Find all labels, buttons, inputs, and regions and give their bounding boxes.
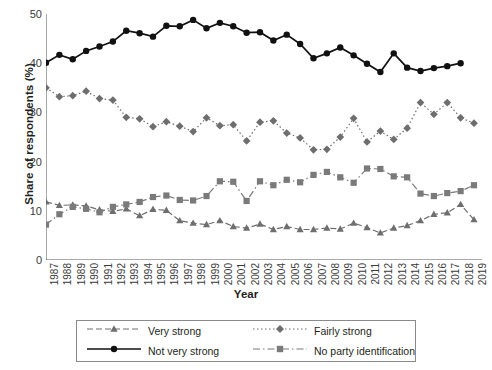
- legend-key-not-very-strong: [85, 342, 143, 360]
- y-axis-tick-label: 20: [30, 156, 42, 168]
- legend-key-fairly-strong: [251, 322, 309, 340]
- x-axis-tick-label: 1992: [117, 263, 127, 285]
- x-axis-tick-label: 2005: [291, 263, 301, 285]
- series-fairly-strong: [46, 84, 478, 154]
- x-axis-tick-label: 1998: [197, 263, 207, 285]
- x-axis-tick-label: 2011: [371, 263, 381, 285]
- x-axis-tick-label: 1990: [90, 263, 100, 285]
- plot-area: 0102030405019871988198919901991199219931…: [46, 14, 482, 260]
- series-not-very-strong: [46, 17, 464, 76]
- x-axis-tick-label: 1994: [144, 263, 154, 285]
- x-axis-tick-label: 2015: [425, 263, 435, 285]
- legend-key-no-party-identification: [251, 342, 309, 360]
- y-axis-tick-label: 30: [30, 106, 42, 118]
- y-axis-tick-label: 0: [36, 254, 42, 266]
- x-axis-tick-label: 2007: [318, 263, 328, 285]
- x-axis-tick-label: 2002: [251, 263, 261, 285]
- x-axis-tick-label: 2003: [264, 263, 274, 285]
- legend-label: Not very strong: [148, 345, 219, 357]
- x-axis-tick-label: 1993: [130, 263, 140, 285]
- x-axis-tick-label: 2008: [331, 263, 341, 285]
- x-axis-tick-label: 2012: [384, 263, 394, 285]
- y-axis-tick-label: 50: [30, 8, 42, 20]
- x-axis-tick-label: 1989: [77, 263, 87, 285]
- x-axis-tick-label: 1997: [184, 263, 194, 285]
- x-axis-tick-label: 2010: [358, 263, 368, 285]
- x-axis-tick-label: 2000: [224, 263, 234, 285]
- x-axis-tick-label: 2018: [465, 263, 475, 285]
- x-axis-tick-label: 1991: [104, 263, 114, 285]
- x-axis-tick-label: 1999: [211, 263, 221, 285]
- x-axis-tick-label: 2017: [451, 263, 461, 285]
- x-axis-tick-label: 2001: [237, 263, 247, 285]
- x-axis-tick-label: 1987: [50, 263, 60, 285]
- chart-legend: Very strong Fairly strong Not very stron…: [76, 320, 416, 362]
- legend-key-very-strong: [85, 322, 143, 340]
- legend-label: No party identification: [314, 345, 415, 357]
- series-no-party-identification: [46, 165, 477, 227]
- chart-figure: Share of respondents (%) Year 0102030405…: [0, 0, 492, 370]
- legend-label: Fairly strong: [314, 325, 372, 337]
- y-axis-tick-label: 10: [30, 205, 42, 217]
- x-axis-tick-label: 1995: [157, 263, 167, 285]
- legend-item-very-strong[interactable]: Very strong: [77, 322, 243, 340]
- legend-item-fairly-strong[interactable]: Fairly strong: [243, 322, 415, 340]
- x-axis-tick-label: 2016: [438, 263, 448, 285]
- x-axis-tick-label: 2014: [411, 263, 421, 285]
- x-axis-tick-label: 2013: [398, 263, 408, 285]
- y-axis-tick-label: 40: [30, 57, 42, 69]
- x-axis-tick-label: 2009: [344, 263, 354, 285]
- x-axis-tick-label: 1988: [63, 263, 73, 285]
- plot-canvas: [46, 14, 482, 260]
- legend-item-no-party-identification[interactable]: No party identification: [243, 342, 415, 360]
- x-axis-tick-label: 2019: [478, 263, 488, 285]
- x-axis-tick-label: 2006: [304, 263, 314, 285]
- legend-item-not-very-strong[interactable]: Not very strong: [77, 342, 243, 360]
- x-axis-tick-label: 2004: [277, 263, 287, 285]
- legend-label: Very strong: [148, 325, 201, 337]
- x-axis-tick-label: 1996: [170, 263, 180, 285]
- x-axis-title: Year: [0, 288, 492, 300]
- y-axis-title: Share of respondents (%): [23, 9, 35, 259]
